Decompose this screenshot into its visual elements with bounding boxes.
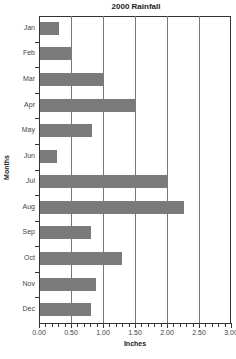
y-tick-label: Mar: [0, 75, 35, 82]
x-tick: [231, 323, 232, 328]
bar-sep: [40, 226, 91, 239]
y-tick: [35, 272, 39, 273]
bar-nov: [40, 278, 96, 291]
x-tick-label: 0.00: [24, 329, 54, 336]
x-tick: [212, 323, 213, 327]
bar-jul: [40, 175, 168, 188]
y-axis-title: Months: [3, 148, 10, 188]
y-tick: [35, 93, 39, 94]
y-tick: [35, 67, 39, 68]
y-tick: [35, 221, 39, 222]
chart-title: 2000 Rainfall: [40, 2, 232, 11]
gridline: [71, 16, 72, 323]
x-tick: [58, 323, 59, 327]
y-tick: [35, 297, 39, 298]
y-tick-label: Aug: [0, 203, 35, 210]
x-tick-label: 0.50: [56, 329, 86, 336]
x-tick: [65, 323, 66, 327]
gridline: [103, 16, 104, 323]
bar-apr: [40, 99, 136, 112]
x-tick: [161, 323, 162, 327]
x-axis-title: Inches: [39, 340, 231, 347]
x-tick: [84, 323, 85, 327]
x-tick: [135, 323, 136, 328]
x-tick-label: 3.00: [216, 329, 236, 336]
x-tick: [45, 323, 46, 327]
bar-dec: [40, 303, 91, 316]
x-tick: [122, 323, 123, 327]
x-tick: [148, 323, 149, 327]
x-tick: [199, 323, 200, 328]
x-tick: [180, 323, 181, 327]
gridline: [135, 16, 136, 323]
x-tick: [52, 323, 53, 327]
x-tick: [173, 323, 174, 327]
x-tick: [71, 323, 72, 328]
x-tick: [205, 323, 206, 327]
y-tick: [35, 246, 39, 247]
x-tick: [141, 323, 142, 327]
x-tick: [225, 323, 226, 327]
x-tick: [218, 323, 219, 327]
x-tick: [109, 323, 110, 327]
x-tick-label: 1.50: [120, 329, 150, 336]
x-tick: [193, 323, 194, 327]
x-tick-label: 1.00: [88, 329, 118, 336]
x-tick: [154, 323, 155, 327]
x-tick-label: 2.50: [184, 329, 214, 336]
y-tick: [35, 144, 39, 145]
gridline: [167, 16, 168, 323]
x-tick: [97, 323, 98, 327]
y-tick-label: Dec: [0, 305, 35, 312]
y-tick-label: Nov: [0, 280, 35, 287]
y-tick-label: Feb: [0, 49, 35, 56]
bar-oct: [40, 252, 122, 265]
bar-jun: [40, 150, 57, 163]
bar-aug: [40, 201, 184, 214]
y-tick-label: May: [0, 126, 35, 133]
y-tick: [35, 170, 39, 171]
x-tick-label: 2.00: [152, 329, 182, 336]
x-tick: [186, 323, 187, 327]
bar-mar: [40, 73, 104, 86]
y-tick-label: Sep: [0, 228, 35, 235]
gridline: [199, 16, 200, 323]
x-tick: [103, 323, 104, 328]
y-tick-label: Apr: [0, 101, 35, 108]
y-tick-label: Jan: [0, 24, 35, 31]
x-tick: [90, 323, 91, 327]
x-tick: [167, 323, 168, 328]
x-tick: [116, 323, 117, 327]
y-tick-label: Oct: [0, 254, 35, 261]
x-tick: [39, 323, 40, 328]
y-tick: [35, 42, 39, 43]
y-tick: [35, 195, 39, 196]
y-tick: [35, 118, 39, 119]
x-tick: [77, 323, 78, 327]
bar-feb: [40, 47, 72, 60]
bar-jan: [40, 22, 59, 35]
bar-may: [40, 124, 92, 137]
x-tick: [129, 323, 130, 327]
